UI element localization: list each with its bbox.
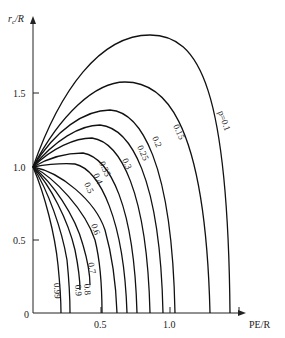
chart: 1.5 1.0 0.5 0 0.5 1.0 PE/R rc/R p=0.1 0.… <box>0 0 285 338</box>
y-tick-label-1.5: 1.5 <box>13 88 26 99</box>
curve-label-p-0.15: 0.15 <box>171 123 187 142</box>
y-tick-label-1.0: 1.0 <box>13 162 26 173</box>
y-axis-arrow-icon <box>30 16 36 24</box>
curve-label-p-0.5: 0.5 <box>82 181 96 196</box>
y-tick-label-0.5: 0.5 <box>13 235 26 246</box>
x-tick-label-1.0: 1.0 <box>163 319 176 330</box>
curve-label-p-0.2: 0.2 <box>150 135 164 149</box>
curve-label-p-0.9: 0.9 <box>73 284 84 297</box>
curve-label-p-0.7: 0.7 <box>86 262 98 275</box>
curve-p-0.7 <box>33 167 90 285</box>
curve-p-0.1 <box>33 35 230 313</box>
curve-label-p-0.99: 0.99 <box>52 283 63 300</box>
x-axis-label: PE/R <box>249 319 270 330</box>
x-tick-label-0.5: 0.5 <box>94 319 107 330</box>
curve-label-p-0.6: 0.6 <box>89 222 102 236</box>
origin-label: 0 <box>24 309 29 320</box>
y-axis-label: rc/R <box>8 13 24 26</box>
curve-label-p-0.3: 0.3 <box>120 157 134 172</box>
curve-label-p-0.1: p=0.1 <box>216 109 233 132</box>
